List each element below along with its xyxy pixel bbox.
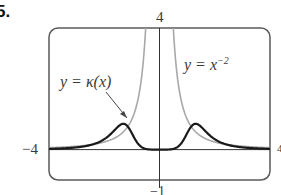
label-curvature: y = κ(x) [60,74,111,90]
y-tick-top: 4 [156,10,164,25]
x-tick-right: 4 [277,143,281,154]
y-tick-bottom: −1 [150,185,165,195]
label-x-inverse-square: y = x−2 [184,56,229,73]
x-tick-left: −4 [22,142,38,157]
arrowhead-icon [120,111,127,118]
label-exponent: −2 [217,55,229,66]
curvature-chart [0,0,281,195]
